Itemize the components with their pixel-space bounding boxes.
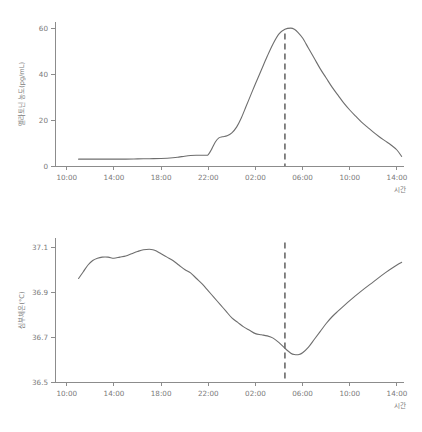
temperature-y-ticks: 36.536.736.937.1: [32, 243, 55, 387]
temperature-curve: [79, 249, 402, 354]
melatonin-axis-lines: [55, 22, 404, 166]
x-tick-label: 10:00: [56, 389, 77, 398]
temperature-x-axis-title: 시간: [394, 401, 406, 410]
y-tick-label: 37.1: [32, 243, 48, 252]
x-tick-label: 22:00: [198, 389, 219, 398]
y-tick-label: 36.7: [32, 333, 48, 342]
temperature-x-ticks: 10:0014:0018:0022:0002:0006:0010:0014:00: [56, 382, 407, 398]
x-tick-label: 02:00: [245, 389, 266, 398]
x-tick-label: 10:00: [56, 173, 77, 182]
y-tick-label: 0: [43, 162, 48, 171]
melatonin-axes: 0204060 10:0014:0018:0022:0002:0006:0010…: [39, 22, 408, 182]
x-tick-label: 14:00: [387, 173, 408, 182]
x-tick-label: 14:00: [104, 173, 125, 182]
circadian-rhythm-figure: 0204060 10:0014:0018:0022:0002:0006:0010…: [0, 0, 422, 432]
x-tick-label: 02:00: [245, 173, 266, 182]
y-tick-label: 40: [39, 70, 49, 79]
melatonin-chart: 0204060 10:0014:0018:0022:0002:0006:0010…: [0, 0, 422, 216]
temperature-axis-lines: [55, 238, 404, 382]
x-tick-label: 06:00: [292, 389, 313, 398]
y-tick-label: 36.5: [32, 378, 48, 387]
x-tick-label: 10:00: [339, 173, 360, 182]
melatonin-y-axis-title: 멜라토닌 농도(pg/mL): [17, 62, 26, 126]
temperature-chart-panel: 36.536.736.937.1 10:0014:0018:0022:0002:…: [0, 216, 422, 432]
x-tick-label: 18:00: [151, 173, 172, 182]
temperature-chart: 36.536.736.937.1 10:0014:0018:0022:0002:…: [0, 216, 422, 432]
melatonin-y-ticks: 0204060: [39, 24, 55, 170]
y-tick-label: 36.9: [32, 288, 48, 297]
melatonin-x-ticks: 10:0014:0018:0022:0002:0006:0010:0014:00: [56, 166, 407, 182]
y-tick-label: 20: [39, 116, 49, 125]
x-tick-label: 14:00: [104, 389, 125, 398]
y-tick-label: 60: [39, 24, 49, 33]
x-tick-label: 06:00: [292, 173, 313, 182]
temperature-axes: 36.536.736.937.1 10:0014:0018:0022:0002:…: [32, 238, 408, 398]
x-tick-label: 14:00: [387, 389, 408, 398]
melatonin-x-axis-title: 시간: [394, 185, 406, 194]
temperature-y-axis-title: 심부체온(°C): [17, 291, 26, 328]
x-tick-label: 18:00: [151, 389, 172, 398]
melatonin-curve: [79, 28, 402, 159]
x-tick-label: 22:00: [198, 173, 219, 182]
melatonin-chart-panel: 0204060 10:0014:0018:0022:0002:0006:0010…: [0, 0, 422, 216]
x-tick-label: 10:00: [339, 389, 360, 398]
